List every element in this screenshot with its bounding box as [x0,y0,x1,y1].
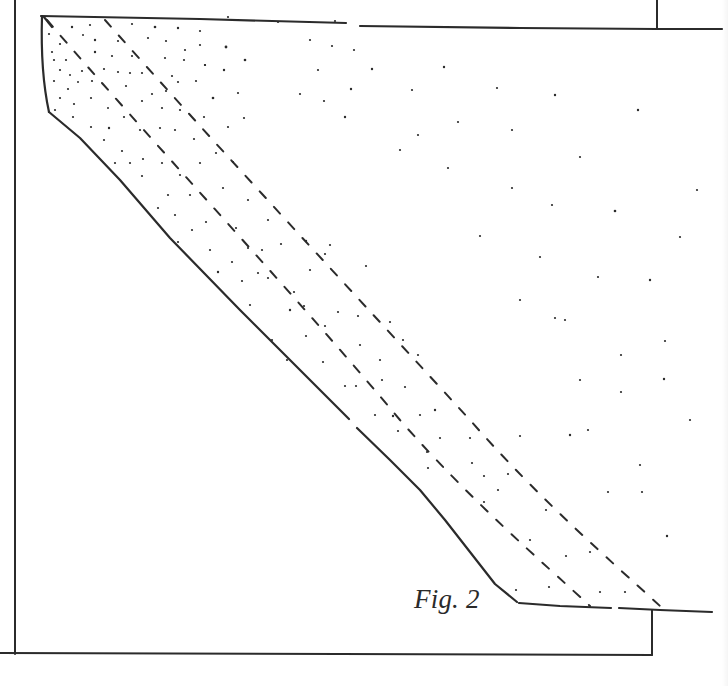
left-boundary-diagonal-lower [357,428,517,602]
left-boundary-diagonal-upper [49,112,349,419]
dashed-line-inner [47,20,590,606]
frame-lines [0,0,657,655]
bottom-boundary-left [519,603,611,608]
dashed-lines [47,20,660,606]
wedge-boundary [41,16,722,612]
top-boundary-left [41,16,346,23]
frame-bottom-horizontal [0,653,652,655]
dashed-line-outer [105,20,660,606]
diagram-canvas [0,0,728,686]
top-boundary-right [360,26,722,29]
figure-caption: Fig. 2 [414,586,480,613]
stipple-dots [48,16,698,593]
left-boundary-curve [42,16,49,112]
figure-2-diagram: Fig. 2 [0,0,728,686]
bottom-boundary-right [619,608,712,612]
page-edge-shadow [722,0,728,686]
